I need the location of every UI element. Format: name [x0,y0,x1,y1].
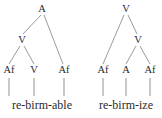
tree-node-r-af2: Af [144,65,155,76]
tree-branch [23,15,41,34]
tree-word-right-tree: re-birm-ize [99,99,153,111]
tree-node-r-root: V [122,4,130,15]
tree-branch [126,46,136,64]
tree-branch [9,46,20,64]
tree-node-l-af2: Af [58,65,69,76]
syntax-tree-figure: AVAfVAfre-birm-ableVVAfAAfre-birm-ize [0,0,162,118]
tree-branch [128,15,137,34]
tree-word-left-tree: re-birm-able [12,99,72,111]
tree-node-l-v: V [18,35,26,46]
tree-branch [140,46,150,64]
tree-branch [103,15,124,64]
tree-node-r-a: A [122,65,130,76]
tree-node-r-af1: Af [97,65,108,76]
tree-node-r-v2: V [134,35,142,46]
tree-node-l-v2: V [30,65,38,76]
tree-node-l-af1: Af [3,65,14,76]
tree-branch [44,15,63,64]
tree-node-l-root: A [38,4,46,15]
tree-branch [24,46,34,64]
